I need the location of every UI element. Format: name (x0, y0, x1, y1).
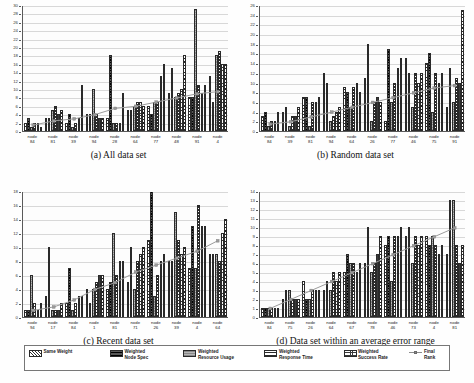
y-tick-mark (19, 6, 21, 7)
y-tick-label: 7 (253, 253, 255, 257)
y-tick-label: 10 (250, 226, 255, 230)
bar (420, 73, 423, 131)
x-tick-label: node48 (166, 134, 187, 144)
bar-groups-a (23, 6, 228, 131)
x-tick-label: node26 (362, 134, 383, 144)
y-tick-label: 2 (16, 121, 18, 125)
y-tick-label: 12 (13, 79, 18, 83)
bar-group (342, 6, 363, 131)
bar-group (167, 192, 188, 317)
y-tick-label: 22 (250, 23, 255, 27)
bar-group (404, 6, 425, 131)
y-tick-label: 0 (16, 130, 18, 134)
bar (461, 245, 464, 317)
x-tick-label: node84 (259, 320, 280, 330)
y-tick-label: 12 (13, 232, 18, 236)
x-tick-label: node26 (146, 320, 167, 330)
y-tick-label: 4 (253, 111, 255, 115)
y-tick-label: 24 (13, 29, 18, 33)
bar-group (208, 6, 229, 131)
y-tick-label: 6 (253, 262, 255, 266)
bar (297, 299, 300, 317)
x-tick-label: node81 (43, 134, 64, 144)
bar-group (445, 6, 466, 131)
y-tick-label: 9 (253, 235, 255, 239)
x-tick-label: node17 (43, 320, 64, 330)
y-tick-mark (256, 291, 258, 292)
y-tick-mark (19, 304, 21, 305)
bar (101, 275, 104, 317)
y-tick-mark (19, 90, 21, 91)
y-tick-mark (19, 132, 21, 133)
legend-swatch (29, 350, 42, 358)
x-tick-label: node4 (187, 320, 208, 330)
bar-group (85, 192, 106, 317)
legend-swatch (264, 350, 277, 358)
y-tick-label: 1 (253, 307, 255, 311)
bar-group (301, 192, 322, 317)
y-tick-mark (19, 124, 21, 125)
x-tick-label: node26 (300, 320, 321, 330)
y-tick-mark (256, 210, 258, 211)
bar (277, 112, 280, 131)
plot-area-b: 02468101214161820222426 (259, 6, 465, 132)
y-tick-mark (256, 6, 258, 7)
bar (359, 263, 362, 317)
bar-group (281, 6, 302, 131)
x-tick-label: node84 (259, 134, 280, 144)
x-tick-label: node46 (403, 134, 424, 144)
y-tick-label: 2 (16, 302, 18, 306)
bar (420, 236, 423, 317)
bar-group (85, 6, 106, 131)
legend-label: Weighted Success Rate (358, 349, 388, 361)
figure-page: Rank 024681012141618202224262830 node84n… (0, 0, 474, 383)
caption-a: (a) All data set (0, 150, 237, 160)
bar-group (363, 6, 384, 131)
y-tick-mark (256, 318, 258, 319)
legend-item: Weighted Response Time (264, 349, 343, 361)
legend-item: Weighted Node Spec (110, 349, 183, 361)
legend-label: Weighted Response Time (279, 349, 313, 361)
x-tick-label: node64 (207, 320, 228, 330)
y-tick-label: 11 (251, 217, 255, 221)
y-tick-mark (19, 192, 21, 193)
y-tick-mark (19, 290, 21, 291)
x-tick-label: node73 (403, 320, 424, 330)
x-tick-label: node4 (207, 134, 228, 144)
bar (297, 107, 300, 131)
y-tick-mark (256, 309, 258, 310)
x-tick-label: node81 (444, 320, 465, 330)
bar (461, 10, 464, 131)
bar-group (424, 6, 445, 131)
y-tick-mark (19, 23, 21, 24)
chart-panel-d: Rank 01234567891011121314 node84node75no… (237, 186, 474, 364)
x-tick-label: node39 (63, 134, 84, 144)
y-tick-mark (256, 300, 258, 301)
x-tick-label: node1 (84, 320, 105, 330)
bar-group (44, 6, 65, 131)
plot-area-d: 01234567891011121314 (259, 192, 465, 318)
y-tick-mark (19, 65, 21, 66)
bar-group (322, 6, 343, 131)
y-tick-label: 18 (13, 54, 18, 58)
y-tick-mark (256, 264, 258, 265)
y-tick-mark (19, 40, 21, 41)
y-tick-label: 2 (253, 298, 255, 302)
y-tick-mark (19, 56, 21, 57)
y-tick-mark (19, 248, 21, 249)
y-tick-label: 0 (16, 316, 18, 320)
bar (318, 97, 321, 131)
bar-group (64, 192, 85, 317)
y-tick-label: 8 (16, 260, 18, 264)
y-tick-label: 4 (16, 288, 18, 292)
x-tick-label: node77 (146, 134, 167, 144)
bar-group (64, 6, 85, 131)
y-tick-label: 10 (13, 246, 18, 250)
y-tick-label: 20 (250, 33, 255, 37)
plot-canvas-b (259, 6, 465, 132)
bar (379, 102, 382, 131)
bar (60, 110, 63, 131)
bar (441, 245, 444, 317)
y-tick-mark (256, 219, 258, 220)
y-tick-mark (19, 31, 21, 32)
